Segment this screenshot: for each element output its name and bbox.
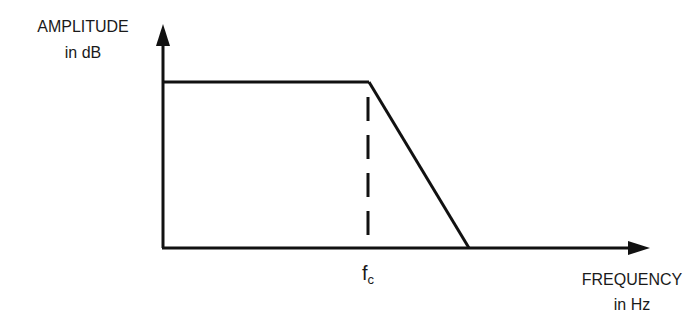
filter-response-diagram: AMPLITUDE in dB FREQUENCY in Hz fc bbox=[0, 0, 687, 333]
y-axis-arrowhead bbox=[156, 24, 170, 46]
rolloff-slope bbox=[369, 82, 469, 248]
cutoff-frequency-label: fc bbox=[362, 262, 375, 287]
y-axis-label-line2: in dB bbox=[65, 44, 101, 61]
y-axis-label-line1: AMPLITUDE bbox=[37, 18, 129, 35]
x-axis-arrowhead bbox=[628, 241, 650, 255]
x-axis-label-line2: in Hz bbox=[614, 296, 650, 313]
x-axis-label-line1: FREQUENCY bbox=[582, 271, 683, 288]
